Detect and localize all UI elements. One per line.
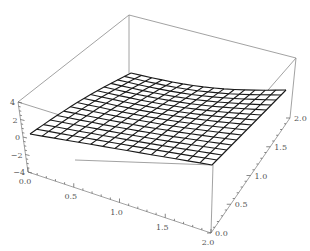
surface-mesh (30, 73, 286, 165)
x-axis: 0.00.51.01.52.0 (19, 168, 215, 247)
x-tick-label: 0.0 (19, 177, 32, 186)
box-edge (129, 15, 296, 58)
z-minor-tick (27, 163, 29, 164)
box-edge (211, 165, 213, 233)
y-tick-label: 2.0 (294, 114, 307, 123)
y-tick-label: 0.0 (215, 229, 228, 238)
z-minor-tick (24, 141, 26, 142)
z-minor-tick (21, 124, 23, 125)
z-tick-label: −2 (11, 151, 23, 160)
y-tick-label: 1.0 (255, 172, 268, 181)
z-minor-tick (24, 146, 26, 147)
z-tick-label: 2 (12, 116, 17, 125)
z-tick (28, 172, 32, 173)
x-tick-label: 1.0 (110, 208, 123, 217)
z-tick (26, 155, 30, 156)
z-minor-tick (20, 115, 22, 116)
z-tick (23, 137, 27, 138)
z-minor-tick (19, 111, 21, 112)
x-tick-label: 0.5 (64, 192, 77, 201)
y-tick-label: 0.5 (235, 200, 248, 209)
z-tick (18, 102, 22, 103)
z-tick (21, 120, 25, 121)
z-tick-label: −4 (13, 168, 25, 177)
z-tick-label: 4 (10, 98, 15, 107)
x-tick-label: 2.0 (202, 238, 215, 247)
z-minor-tick (25, 150, 27, 151)
z-minor-tick (19, 106, 21, 107)
x-tick-label: 1.5 (156, 223, 169, 232)
box-edge (290, 58, 296, 118)
z-minor-tick (22, 133, 24, 134)
z-minor-tick (26, 159, 28, 160)
z-axis: 420−2−4 (10, 98, 32, 177)
surface-plot: 420−2−4 0.00.51.01.52.0 0.00.51.01.52.0 (0, 0, 310, 251)
y-tick-label: 1.5 (274, 143, 287, 152)
z-tick-label: 0 (15, 133, 20, 142)
z-minor-tick (22, 128, 24, 129)
